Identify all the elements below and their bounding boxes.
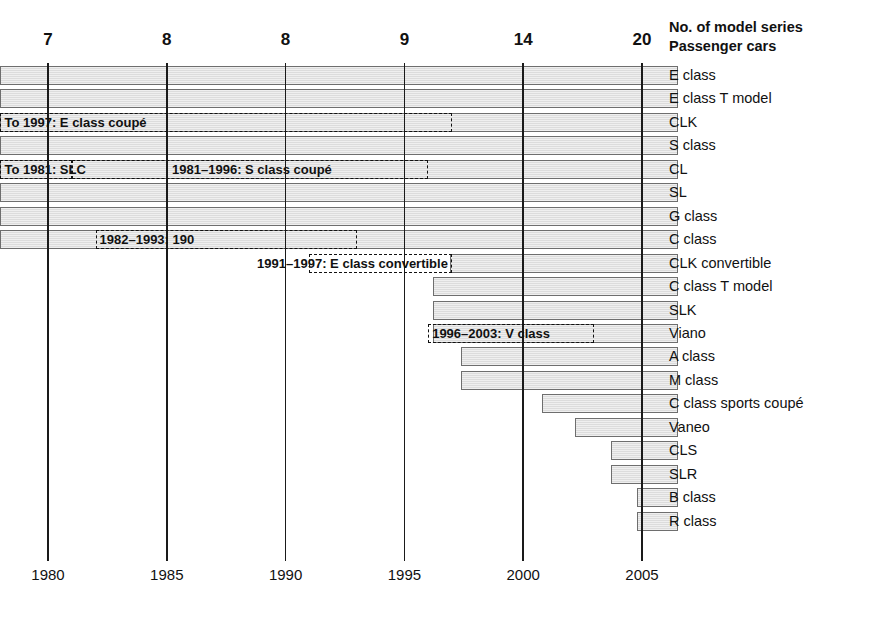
series-label-c-class-t-model: C class T model — [669, 277, 772, 296]
series-label-vaneo: Vaneo — [669, 418, 710, 437]
header-line-2: Passenger cars — [669, 37, 803, 56]
bar-row — [461, 371, 677, 390]
x-tick-label-1990: 1990 — [269, 566, 302, 583]
timeline-chart: No. of model series Passenger cars 78891… — [0, 0, 885, 618]
series-label-cls: CLS — [669, 441, 697, 460]
model-series-count-7-0: 7 — [43, 30, 52, 50]
series-label-m-class: M class — [669, 371, 718, 390]
series-label-r-class: R class — [669, 512, 717, 531]
bar-row — [0, 183, 677, 202]
x-tick-1995 — [404, 533, 406, 561]
gridline-2000 — [522, 63, 524, 534]
annotation-label: To 1997: E class coupé — [0, 113, 146, 132]
x-tick-1990 — [285, 533, 287, 561]
bar-row — [0, 89, 677, 108]
bar-row — [611, 465, 678, 484]
x-tick-2000 — [522, 533, 524, 561]
model-series-count-20-5: 20 — [633, 30, 652, 50]
gridline-2005 — [641, 63, 643, 534]
x-tick-label-1995: 1995 — [388, 566, 421, 583]
series-label-g-class: G class — [669, 207, 717, 226]
model-series-count-8-2: 8 — [281, 30, 290, 50]
bar-row — [450, 254, 678, 273]
series-label-b-class: B class — [669, 488, 716, 507]
bar-row — [611, 441, 678, 460]
bar-row — [575, 418, 677, 437]
chart-header: No. of model series Passenger cars — [669, 18, 803, 56]
gridline-1980 — [47, 63, 49, 534]
series-label-c-class-sports-coup: C class sports coupé — [669, 394, 804, 413]
annotation-label: 1981–1996: S class coupé — [72, 160, 428, 179]
model-series-count-8-1: 8 — [162, 30, 171, 50]
x-tick-label-2000: 2000 — [507, 566, 540, 583]
model-series-count-9-3: 9 — [400, 30, 409, 50]
series-label-clk: CLK — [669, 113, 697, 132]
bar-row — [0, 136, 677, 155]
plot-area: To 1997: E class coupéTo 1981: SLC1981–1… — [0, 63, 885, 533]
series-label-slr: SLR — [669, 465, 697, 484]
bar-row — [0, 207, 677, 226]
gridline-1995 — [404, 63, 406, 534]
annotation-label: 1982–1993: 190 — [96, 230, 195, 249]
series-label-s-class: S class — [669, 136, 716, 155]
gridline-1985 — [166, 63, 168, 534]
x-tick-1980 — [47, 533, 49, 561]
annotation-label: 1991–1997: E class convertible — [109, 254, 452, 273]
x-tick-label-2005: 2005 — [625, 566, 658, 583]
series-label-slk: SLK — [669, 301, 696, 320]
gridline-1990 — [285, 63, 287, 534]
x-tick-label-1980: 1980 — [31, 566, 64, 583]
x-tick-label-1985: 1985 — [150, 566, 183, 583]
bar-row — [0, 66, 677, 85]
x-tick-2005 — [641, 533, 643, 561]
series-label-cl: CL — [669, 160, 688, 179]
model-series-count-14-4: 14 — [514, 30, 533, 50]
series-label-a-class: A class — [669, 347, 715, 366]
series-label-e-class-t-model: E class T model — [669, 89, 772, 108]
series-label-e-class: E class — [669, 66, 716, 85]
series-label-sl: SL — [669, 183, 687, 202]
bar-row — [542, 394, 677, 413]
header-line-1: No. of model series — [669, 18, 803, 37]
series-label-c-class: C class — [669, 230, 717, 249]
bar-row — [461, 347, 677, 366]
annotation-label: 1996–2003: V class — [428, 324, 550, 343]
series-label-viano: Viano — [669, 324, 706, 343]
x-tick-1985 — [166, 533, 168, 561]
series-label-clk-convertible: CLK convertible — [669, 254, 771, 273]
